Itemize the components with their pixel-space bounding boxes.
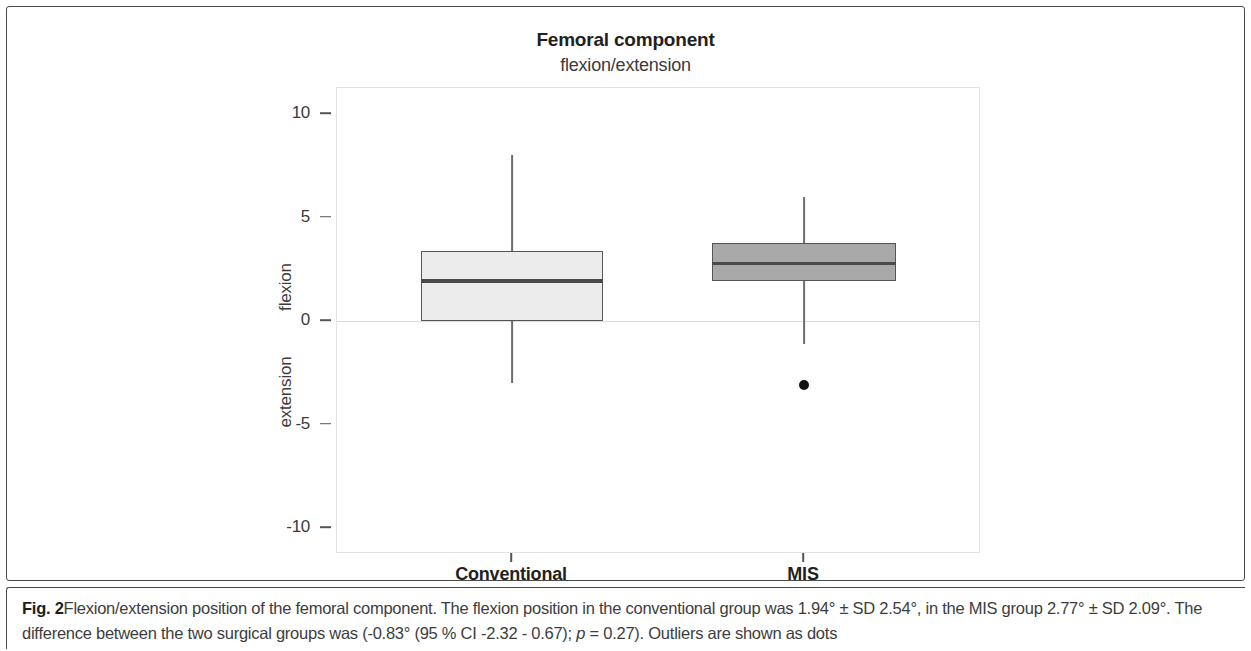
whisker-upper xyxy=(511,155,513,250)
whisker-upper xyxy=(803,197,805,244)
plot-area xyxy=(336,87,980,553)
y-axis-tick-mark xyxy=(320,112,331,114)
y-axis-tick-label: 0 xyxy=(250,310,310,330)
caption-p-symbol: p xyxy=(576,624,585,642)
median-line xyxy=(712,262,896,265)
chart-title: Femoral component xyxy=(0,29,1251,51)
y-axis-tick-label: 10 xyxy=(250,103,310,123)
figure-label: Fig. 2 xyxy=(22,599,64,617)
figure-caption: Fig. 2Flexion/extension position of the … xyxy=(22,596,1237,646)
caption-tail: = 0.27). Outliers are shown as dots xyxy=(585,624,837,642)
y-axis-tick-label: 5 xyxy=(250,207,310,227)
x-axis-tick-mark xyxy=(510,553,512,562)
figure-root: Femoral component flexion/extension Angl… xyxy=(0,0,1251,651)
outlier-dot xyxy=(799,380,809,390)
y-axis-tick-mark xyxy=(320,319,331,321)
whisker-lower xyxy=(803,281,805,344)
zero-reference-line xyxy=(337,321,979,322)
x-axis-tick-label-conventional: Conventional xyxy=(381,564,641,585)
y-axis-tick-label: -5 xyxy=(250,414,310,434)
y-axis-tick-label: -10 xyxy=(250,517,310,537)
y-axis-tick-labels: 1050-5-10 xyxy=(250,0,310,651)
y-axis-tick-mark xyxy=(320,526,331,528)
chart-subtitle: flexion/extension xyxy=(0,55,1251,76)
box-iqr xyxy=(421,251,603,321)
x-axis-tick-label-mis: MIS xyxy=(673,564,933,585)
whisker-lower xyxy=(511,321,513,383)
median-line xyxy=(421,279,603,282)
y-axis-tick-mark xyxy=(320,216,331,218)
x-axis-tick-mark xyxy=(802,553,804,562)
y-axis-tick-mark xyxy=(320,423,331,425)
